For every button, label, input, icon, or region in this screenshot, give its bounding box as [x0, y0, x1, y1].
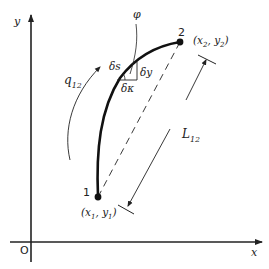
- delta-y-label: δy: [140, 66, 153, 78]
- l12-dimension-line-upper: [186, 60, 206, 100]
- point-1: [95, 194, 102, 201]
- y-axis-label: y: [13, 15, 21, 28]
- l12-end-tick-top: [198, 55, 216, 64]
- origin-label: O: [20, 244, 29, 257]
- q12-label: q12: [64, 73, 82, 90]
- l12-end-tick-bottom: [118, 205, 134, 214]
- l12-dimension-line-lower: [128, 129, 170, 206]
- phi-label: φ: [133, 8, 141, 21]
- delta-s-label: δs: [109, 60, 121, 72]
- point-2-label: 2: [178, 26, 185, 39]
- delta-x-label: δκ: [121, 82, 134, 94]
- diagram-canvas: y x O 1 2 (x1, y1) (x2, y2) L12 q12 φ δs…: [0, 0, 269, 269]
- point-2-coords: (x2, y2): [193, 34, 229, 49]
- point-1-label: 1: [83, 186, 90, 199]
- curve-diagram: y x O 1 2 (x1, y1) (x2, y2) L12 q12 φ δs…: [0, 0, 269, 269]
- x-axis-label: x: [251, 246, 258, 259]
- point-1-coords: (x1, y1): [81, 206, 117, 221]
- l12-label: L12: [181, 127, 200, 144]
- point-2: [177, 39, 184, 46]
